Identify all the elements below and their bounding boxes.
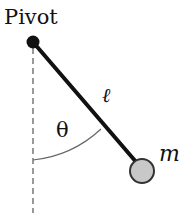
- pendulum-rod: [33, 42, 137, 163]
- mass-label: m: [159, 141, 180, 166]
- pendulum-bob: [130, 159, 154, 183]
- pivot-label: Pivot: [4, 5, 58, 29]
- pivot-point: [27, 36, 40, 49]
- length-label: ℓ: [102, 83, 111, 107]
- angle-label: θ: [56, 118, 69, 142]
- pendulum-diagram: Pivot ℓ θ m: [0, 0, 190, 221]
